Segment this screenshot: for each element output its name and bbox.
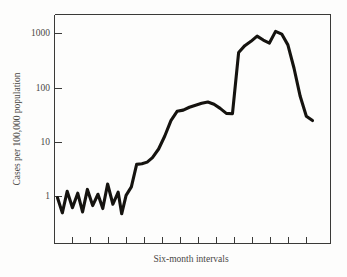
chart-canvas: 1000 100 10 1 Six-month intervals Case [0,0,347,277]
y-tick-label-100: 100 [36,83,51,93]
y-axis-title: Cases per 100,000 population [12,72,22,185]
y-tick-label-10: 10 [41,137,51,147]
x-axis-title: Six-month intervals [153,254,229,264]
data-series-line [58,31,313,213]
chart-figure: 1000 100 10 1 Six-month intervals Case [0,0,347,277]
y-tick-label-1000: 1000 [31,28,50,38]
x-axis-ticks [73,237,307,244]
y-tick-labels: 1000 100 10 1 [31,28,50,201]
y-axis-ticks [55,34,62,197]
y-tick-label-1: 1 [45,191,50,201]
